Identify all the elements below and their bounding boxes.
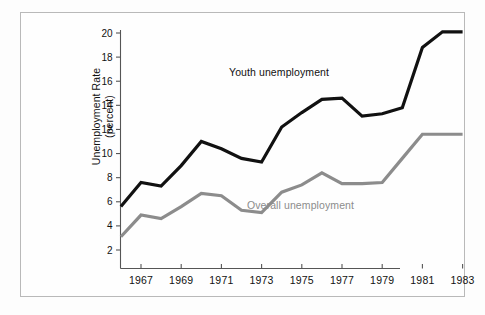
- line-chart-plot: 2468101214161820 19671969197119731975197…: [0, 0, 485, 315]
- y-axis-title-line1: Unemployment Rate: [90, 67, 103, 167]
- series-label-overall: Overall unemployment: [247, 199, 354, 211]
- x-tick-label: 1971: [209, 274, 233, 286]
- y-tick-label: 4: [107, 220, 113, 231]
- x-tick-label: 1979: [370, 274, 394, 286]
- y-tick-label: 18: [101, 52, 113, 63]
- figure-canvas: 2468101214161820 19671969197119731975197…: [0, 0, 485, 315]
- x-tick-label: 1977: [330, 274, 354, 286]
- x-tick-label: 1975: [290, 274, 314, 286]
- y-axis-title-line2: (percent): [102, 67, 115, 167]
- x-tick-label: 1973: [250, 274, 274, 286]
- x-tick-label: 1981: [410, 274, 434, 286]
- series-line-overall: [121, 134, 463, 236]
- y-tick-label: 8: [107, 172, 113, 183]
- x-tick-label: 1967: [129, 274, 153, 286]
- y-axis-title: Unemployment Rate (percent): [90, 67, 115, 167]
- y-tick-label: 6: [107, 196, 113, 207]
- x-tick-label: 1983: [451, 274, 475, 286]
- x-axis-ticks: 196719691971197319751977197919811983: [129, 264, 475, 286]
- y-tick-label: 20: [101, 28, 113, 39]
- y-tick-label: 2: [107, 245, 113, 256]
- series-label-youth: Youth unemployment: [229, 66, 329, 78]
- x-tick-label: 1969: [169, 274, 193, 286]
- series-line-youth: [121, 32, 463, 207]
